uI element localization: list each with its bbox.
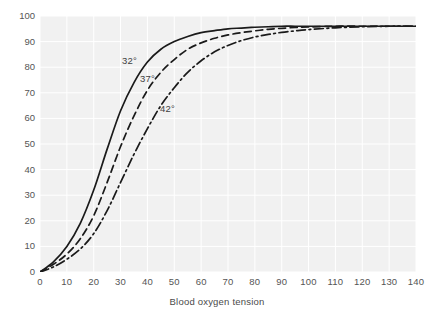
series-label-32: 32° bbox=[122, 55, 137, 66]
x-axis-tick-label: 120 bbox=[350, 276, 374, 287]
series-label-37: 37° bbox=[140, 73, 155, 84]
x-axis-tick-label: 80 bbox=[243, 276, 267, 287]
x-axis-tick-label: 10 bbox=[55, 276, 79, 287]
y-axis-tick-label: 30 bbox=[0, 189, 35, 200]
x-axis-tick-label: 110 bbox=[323, 276, 347, 287]
series-curve-37 bbox=[40, 26, 416, 272]
y-axis-tick-label: 60 bbox=[0, 112, 35, 123]
series-label-42: 42° bbox=[160, 103, 175, 114]
y-axis-tick-label: 40 bbox=[0, 164, 35, 175]
y-axis-tick-label: 80 bbox=[0, 61, 35, 72]
x-axis-tick-label: 100 bbox=[297, 276, 321, 287]
y-axis-tick-label: 10 bbox=[0, 240, 35, 251]
x-axis-tick-label: 20 bbox=[82, 276, 106, 287]
x-axis-tick-label: 130 bbox=[377, 276, 401, 287]
y-axis-tick-label: 90 bbox=[0, 36, 35, 47]
x-axis-tick-label: 60 bbox=[189, 276, 213, 287]
x-axis-tick-label: 30 bbox=[109, 276, 133, 287]
x-axis-tick-label: 140 bbox=[404, 276, 428, 287]
x-axis-title: Blood oxygen tension bbox=[0, 296, 434, 307]
y-axis-tick-label: 50 bbox=[0, 138, 35, 149]
y-axis-tick-label: 70 bbox=[0, 87, 35, 98]
y-axis-tick-label: 100 bbox=[0, 10, 35, 21]
x-axis-tick-label: 0 bbox=[28, 276, 52, 287]
curves bbox=[40, 16, 416, 272]
plot-area bbox=[40, 16, 416, 272]
x-axis-tick-label: 90 bbox=[270, 276, 294, 287]
series-curve-42 bbox=[40, 26, 416, 272]
chart-figure: 0102030405060708090100 % Hb sat 32°37°42… bbox=[0, 0, 434, 317]
y-axis-tick-label: 20 bbox=[0, 215, 35, 226]
x-axis-tick-label: 70 bbox=[216, 276, 240, 287]
x-axis-tick-label: 50 bbox=[162, 276, 186, 287]
series-curve-32 bbox=[40, 26, 416, 272]
x-axis-tick-label: 40 bbox=[135, 276, 159, 287]
